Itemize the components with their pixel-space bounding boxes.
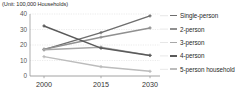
legend-item-3-person[interactable]: 3-person — [170, 36, 239, 49]
y-tick-label: 0 — [23, 72, 27, 79]
x-tick-label: 2015 — [93, 80, 109, 89]
y-tick-label: 30 — [20, 26, 28, 33]
x-tick-label: 2030 — [142, 80, 158, 89]
legend-label: 3-person — [180, 39, 204, 46]
legend-item-4-person[interactable]: 4-person — [170, 49, 239, 62]
series-line-5-person-household — [44, 57, 150, 72]
x-tick-label: 2000 — [36, 80, 52, 89]
legend-item-2-person[interactable]: 2-person — [170, 22, 239, 35]
y-tick-label: 40 — [20, 10, 28, 17]
legend-swatch — [170, 28, 177, 30]
legend-item-5-person-household[interactable]: 5-person household — [170, 63, 239, 76]
legend-swatch — [170, 68, 177, 70]
legend-label: 2-person — [180, 26, 204, 33]
legend-label: 4-person — [180, 52, 204, 59]
y-tick-label: 20 — [20, 41, 28, 48]
series-line-3-person — [44, 47, 150, 55]
legend-swatch — [170, 55, 177, 57]
legend-item-single-person[interactable]: Single-person — [170, 9, 239, 22]
legend-label: Single-person — [180, 12, 218, 19]
legend-swatch — [170, 15, 177, 17]
legend-label: 5-person household — [180, 66, 235, 73]
legend-swatch — [170, 42, 177, 44]
y-tick-label: 10 — [20, 57, 28, 64]
household-size-line-chart: (Unit: 100,000 Households) 0102030402000… — [0, 0, 239, 92]
chart-legend: Single-person2-person3-person4-person5-p… — [170, 9, 239, 76]
